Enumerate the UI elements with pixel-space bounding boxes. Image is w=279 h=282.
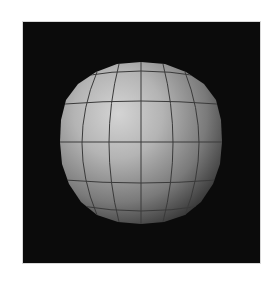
sphere bbox=[60, 62, 222, 224]
render-viewport bbox=[23, 22, 260, 263]
sphere-render bbox=[23, 22, 260, 263]
